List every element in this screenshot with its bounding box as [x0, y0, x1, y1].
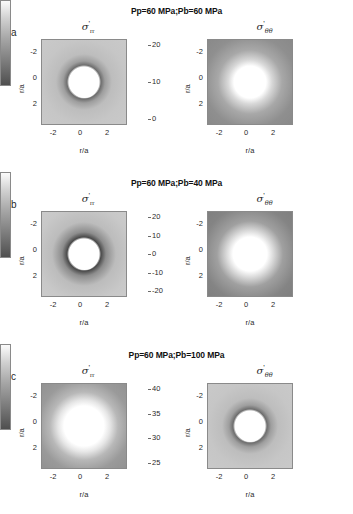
ytick-2: -2 — [21, 219, 37, 228]
xtick-0: 0 — [72, 300, 88, 309]
colorbar-tickmark — [148, 463, 151, 464]
panel-a: aPp=60 MPa;Pb=60 MPaσ'rr-202-202r/ar/a20… — [0, 0, 353, 171]
borehole-mask — [70, 239, 99, 270]
axes-title-c-right: σ'θθ — [176, 363, 353, 379]
xtick-0: 0 — [72, 128, 88, 137]
xtick-2: 2 — [99, 300, 115, 309]
ytick-2: -2 — [187, 219, 203, 228]
heatmap-c-right — [207, 383, 293, 469]
xtick-0: 0 — [238, 128, 254, 137]
ytick-neg2: 2 — [187, 443, 203, 452]
colorbar-tickmark — [148, 119, 151, 120]
ytick-neg2: 2 — [187, 271, 203, 280]
ytick-0: 0 — [187, 417, 203, 426]
panel-c: cPp=60 MPa;Pb=100 MPaσ'rr-202-202r/ar/a4… — [0, 344, 353, 514]
ytick-0: 0 — [21, 417, 37, 426]
axes-title-c-left: σ'rr — [0, 363, 176, 378]
borehole-mask — [70, 67, 99, 98]
yaxis-label: r/a — [17, 256, 26, 265]
colorbar-tickmark — [148, 438, 151, 439]
ytick-neg2: 2 — [21, 271, 37, 280]
colorbar-c-left — [0, 344, 11, 430]
colorbar-tick-label: 20 — [152, 40, 160, 49]
ytick-0: 0 — [187, 73, 203, 82]
ytick-0: 0 — [21, 245, 37, 254]
colorbar-tick-label: 20 — [152, 212, 160, 221]
axes-title-a-right: σ'θθ — [176, 19, 353, 35]
xtick-2: 2 — [265, 300, 281, 309]
colorbar-tickmark — [148, 414, 151, 415]
heatmap-b-left — [41, 211, 127, 297]
axes-title-b-left: σ'rr — [0, 191, 176, 206]
colorbar-tickmark — [148, 217, 151, 218]
borehole-mask — [236, 411, 265, 442]
yaxis-label: r/a — [183, 256, 192, 265]
xtick-neg2: -2 — [45, 472, 61, 481]
xaxis-label: r/a — [41, 490, 127, 499]
subplot-b-right: σ'θθ-202-202r/ar/a806040 — [176, 172, 353, 343]
xtick-neg2: -2 — [211, 300, 227, 309]
xaxis-label: r/a — [207, 318, 293, 327]
sigma-subscript: θθ — [265, 371, 273, 379]
borehole-mask — [236, 67, 265, 98]
xtick-2: 2 — [265, 472, 281, 481]
colorbar-tickmark — [148, 45, 151, 46]
xtick-0: 0 — [238, 300, 254, 309]
heatmap-a-left — [41, 39, 127, 125]
xaxis-label: r/a — [207, 490, 293, 499]
colorbar-tick-label: 0 — [152, 114, 156, 123]
xtick-neg2: -2 — [211, 472, 227, 481]
sigma-subscript: θθ — [265, 199, 273, 207]
colorbar-tick-label: -10 — [152, 268, 163, 277]
colorbar-a-left — [0, 0, 11, 86]
ytick-neg2: 2 — [21, 443, 37, 452]
heatmap-b-right — [207, 211, 293, 297]
ytick-2: -2 — [187, 391, 203, 400]
sigma-subscript: θθ — [265, 27, 273, 35]
colorbar-tick-label: 25 — [152, 458, 160, 467]
yaxis-label: r/a — [17, 428, 26, 437]
heatmap-a-right — [207, 39, 293, 125]
subplot-a-left: σ'rr-202-202r/ar/a20100 — [0, 0, 176, 171]
ytick-neg2: 2 — [21, 99, 37, 108]
colorbar-tick-label: 10 — [152, 231, 160, 240]
yaxis-label: r/a — [183, 84, 192, 93]
ytick-2: -2 — [21, 391, 37, 400]
colorbar-b-left — [0, 172, 11, 258]
colorbar-tickmark — [148, 389, 151, 390]
ytick-neg2: 2 — [187, 99, 203, 108]
xtick-0: 0 — [72, 472, 88, 481]
colorbar-tick-label: 35 — [152, 409, 160, 418]
xtick-2: 2 — [265, 128, 281, 137]
ytick-2: -2 — [21, 47, 37, 56]
panel-b: bPp=60 MPa;Pb=40 MPaσ'rr-202-202r/ar/a20… — [0, 172, 353, 343]
subplot-b-left: σ'rr-202-202r/ar/a20100-10-20 — [0, 172, 176, 343]
colorbar-tick-label: -20 — [152, 286, 163, 295]
heatmap-c-left — [41, 383, 127, 469]
ytick-0: 0 — [187, 245, 203, 254]
sigma-subscript: rr — [90, 27, 94, 34]
ytick-2: -2 — [187, 47, 203, 56]
colorbar-tickmark — [148, 273, 151, 274]
colorbar-tick-label: 10 — [152, 77, 160, 86]
sigma-subscript: rr — [90, 199, 94, 206]
colorbar-tickmark — [148, 291, 151, 292]
colorbar-tickmark — [148, 236, 151, 237]
yaxis-label: r/a — [17, 84, 26, 93]
subplot-c-left: σ'rr-202-202r/ar/a40353025 — [0, 344, 176, 514]
ytick-0: 0 — [21, 73, 37, 82]
xtick-neg2: -2 — [211, 128, 227, 137]
sigma-subscript: rr — [90, 371, 94, 378]
axes-title-a-left: σ'rr — [0, 19, 176, 34]
xtick-2: 2 — [99, 128, 115, 137]
axes-title-b-right: σ'θθ — [176, 191, 353, 207]
xtick-0: 0 — [238, 472, 254, 481]
xaxis-label: r/a — [207, 146, 293, 155]
xtick-2: 2 — [99, 472, 115, 481]
xaxis-label: r/a — [41, 318, 127, 327]
colorbar-tickmark — [148, 254, 151, 255]
xtick-neg2: -2 — [45, 300, 61, 309]
subplot-a-right: σ'θθ-202-202r/ar/a60504030 — [176, 0, 353, 171]
colorbar-tick-label: 30 — [152, 433, 160, 442]
borehole-mask — [236, 239, 265, 270]
